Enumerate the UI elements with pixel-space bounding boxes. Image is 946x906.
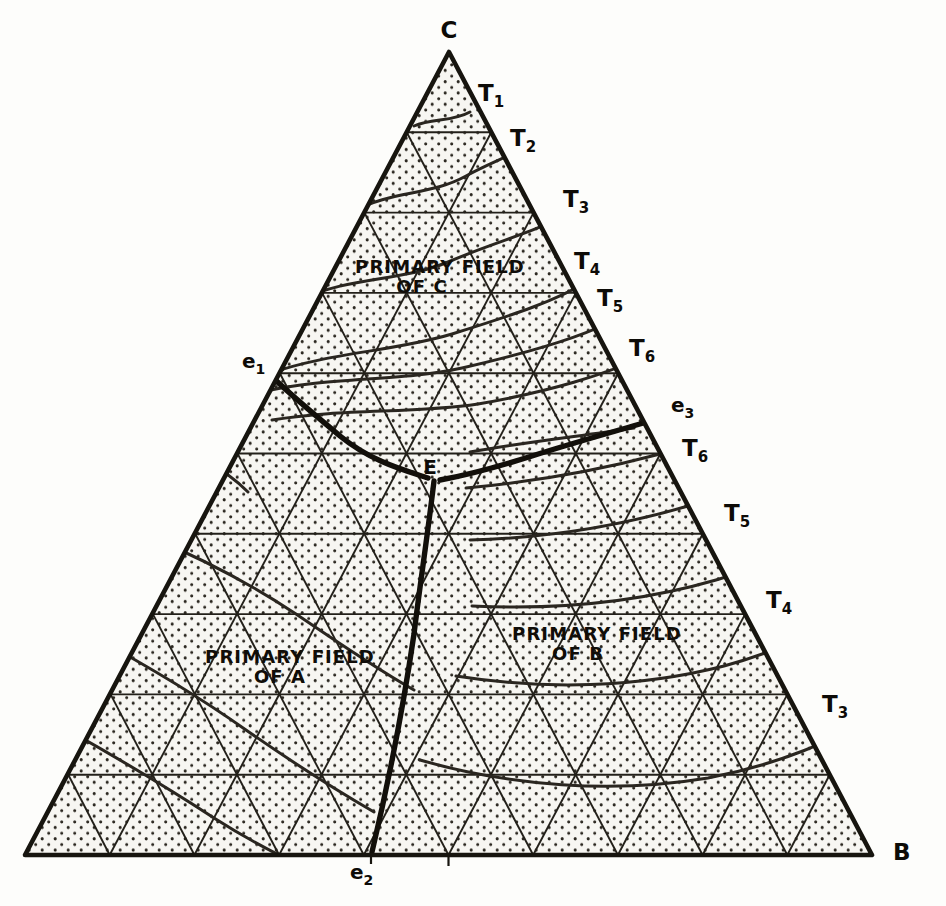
diagram-canvas: C B T1 T2 T3 T4 T5 T6 T6 T5 T4 T3 e1 e2 …: [0, 0, 946, 906]
eutectic-label-e1: e1: [242, 349, 265, 377]
isotherm-label-t1: T1: [478, 80, 504, 111]
ternary-eutectic-label: E: [423, 455, 437, 479]
isotherm-label-t6-lower: T6: [682, 435, 708, 466]
eutectic-label-e3: e3: [671, 393, 694, 421]
isotherm-label-t2: T2: [510, 125, 536, 156]
isotherm-label-t5: T5: [597, 285, 623, 316]
isotherm-label-t4-lower: T4: [766, 587, 792, 618]
isotherm-label-t3-lower: T3: [822, 691, 848, 722]
vertex-label-b: B: [893, 839, 911, 865]
svg-text:OF B: OF B: [552, 643, 604, 664]
ternary-phase-diagram: C B T1 T2 T3 T4 T5 T6 T6 T5 T4 T3 e1 e2 …: [0, 0, 946, 906]
isotherm-label-t5-lower: T5: [724, 500, 750, 531]
isotherm-label-t4: T4: [574, 248, 600, 279]
isotherm-label-t6: T6: [629, 335, 655, 366]
eutectic-label-e2: e2: [350, 860, 373, 888]
svg-text:OF A: OF A: [254, 666, 306, 687]
svg-text:PRIMARY FIELD: PRIMARY FIELD: [205, 646, 375, 667]
isotherm-label-t3: T3: [563, 186, 589, 217]
svg-text:PRIMARY FIELD: PRIMARY FIELD: [355, 256, 525, 277]
svg-text:OF C: OF C: [396, 276, 447, 297]
svg-text:PRIMARY FIELD: PRIMARY FIELD: [512, 623, 682, 644]
vertex-label-c: C: [441, 17, 458, 43]
